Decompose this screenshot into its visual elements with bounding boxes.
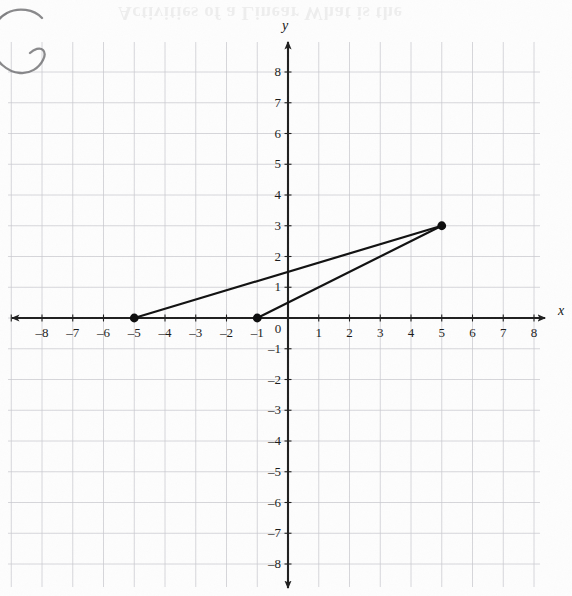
x-tick-label: 7 bbox=[500, 325, 507, 341]
y-tick-label: 1 bbox=[275, 279, 282, 295]
x-tick-label: 5 bbox=[439, 325, 446, 341]
y-tick-label: 3 bbox=[275, 218, 282, 234]
x-tick-label: 4 bbox=[408, 325, 415, 341]
x-tick-label: –3 bbox=[189, 325, 202, 341]
y-tick-label: 6 bbox=[275, 126, 282, 142]
y-tick-label: –7 bbox=[268, 525, 281, 541]
data-point bbox=[130, 314, 139, 323]
y-tick-label: 7 bbox=[275, 95, 282, 111]
x-tick-label: –2 bbox=[220, 325, 233, 341]
y-tick-label: –5 bbox=[268, 464, 281, 480]
y-tick-label: –4 bbox=[268, 433, 281, 449]
worksheet-page: Activities of a Linear What is the –8–7–… bbox=[0, 0, 572, 596]
y-tick-label: –3 bbox=[268, 402, 281, 418]
coordinate-plane-graph bbox=[0, 0, 572, 596]
y-tick-label: –6 bbox=[268, 495, 281, 511]
x-tick-label: –8 bbox=[36, 325, 49, 341]
y-axis-label: y bbox=[282, 18, 288, 34]
y-tick-label: 2 bbox=[275, 249, 282, 265]
origin-label: 0 bbox=[275, 321, 282, 337]
data-point bbox=[253, 314, 262, 323]
y-tick-label: 8 bbox=[275, 64, 282, 80]
x-tick-label: 3 bbox=[377, 325, 384, 341]
y-tick-label: –8 bbox=[268, 556, 281, 572]
x-tick-label: 2 bbox=[346, 325, 353, 341]
data-point bbox=[437, 221, 446, 230]
x-tick-label: 1 bbox=[316, 325, 323, 341]
graph-svg bbox=[0, 0, 572, 596]
x-tick-label: –7 bbox=[66, 325, 79, 341]
y-tick-label: 5 bbox=[275, 156, 282, 172]
x-tick-label: 6 bbox=[469, 325, 476, 341]
y-tick-label: 4 bbox=[275, 187, 282, 203]
y-tick-label: –2 bbox=[268, 372, 281, 388]
x-tick-label: –1 bbox=[251, 325, 264, 341]
y-tick-label: –1 bbox=[268, 341, 281, 357]
x-tick-label: –5 bbox=[128, 325, 141, 341]
x-tick-label: 8 bbox=[531, 325, 538, 341]
x-tick-label: –6 bbox=[97, 325, 110, 341]
x-tick-label: –4 bbox=[159, 325, 172, 341]
x-axis-label: x bbox=[558, 303, 564, 319]
